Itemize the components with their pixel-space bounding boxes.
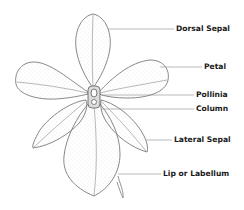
- label-lateral-sepal: Lateral Sepal: [174, 136, 231, 144]
- pollinia-shape: [91, 89, 97, 97]
- label-petal: Petal: [204, 63, 226, 71]
- label-dorsal-sepal: Dorsal Sepal: [176, 25, 230, 33]
- left-petal-shape: [16, 62, 88, 99]
- right-petal-shape: [99, 60, 168, 98]
- dorsal-sepal-shape: [76, 14, 111, 88]
- label-pollinia: Pollinia: [196, 91, 228, 99]
- column-shape: [88, 86, 100, 108]
- label-lip-or-labellum: Lip or Labellum: [163, 170, 229, 178]
- orchid-diagram: Dorsal Sepal Petal Pollinia Column Later…: [0, 0, 244, 210]
- label-column: Column: [196, 105, 228, 113]
